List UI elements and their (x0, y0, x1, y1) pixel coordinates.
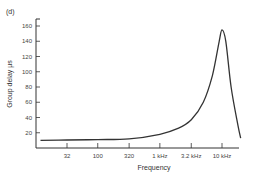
y-tick-label: 80 (25, 84, 32, 90)
y-tick-label: 140 (22, 38, 33, 44)
y-tick-label: 120 (22, 54, 33, 60)
panel-label: (d) (6, 8, 15, 16)
group-delay-chart: (d) 20406080100120140160 321003201 kHz3.… (0, 0, 257, 180)
x-tick-label: 32 (64, 153, 71, 159)
x-ticks: 321003201 kHz3.2 kHz10 kHz (64, 143, 232, 159)
x-tick-label: 100 (93, 153, 104, 159)
y-ticks: 20406080100120140160 (22, 23, 40, 136)
y-tick-label: 60 (25, 99, 32, 105)
x-tick-label: 320 (124, 153, 135, 159)
x-tick-label: 10 kHz (213, 153, 232, 159)
y-tick-label: 20 (25, 130, 32, 136)
group-delay-curve (41, 30, 241, 141)
y-tick-label: 40 (25, 115, 32, 121)
x-tick-label: 3.2 kHz (181, 153, 201, 159)
y-axis-label: Group delay µs (6, 60, 14, 108)
x-tick-label: 1 kHz (152, 153, 167, 159)
y-tick-label: 100 (22, 69, 33, 75)
y-tick-label: 160 (22, 23, 33, 29)
x-axis-label: Frequency (137, 164, 171, 172)
